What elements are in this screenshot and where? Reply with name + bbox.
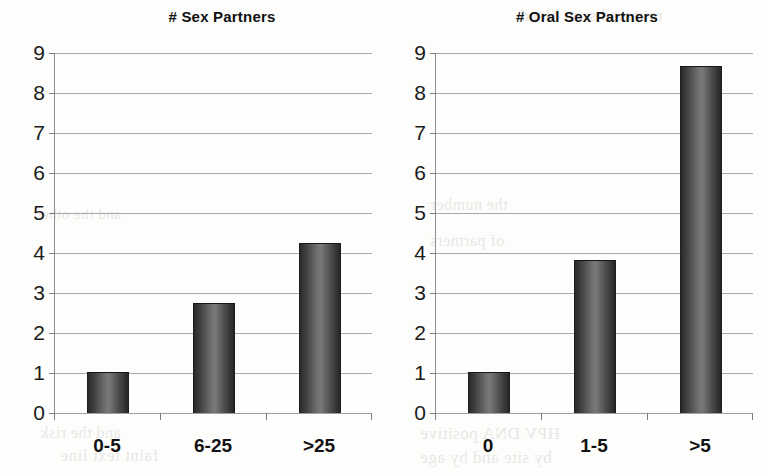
chart-title: # Oral Sex Partners <box>383 8 767 25</box>
bar <box>468 372 510 413</box>
y-gridline <box>54 213 372 214</box>
y-axis-label: 7 <box>414 121 426 145</box>
x-axis-label: 0-5 <box>93 435 120 457</box>
y-gridline <box>54 413 372 414</box>
y-axis-tick <box>49 333 55 334</box>
y-gridline <box>54 93 372 94</box>
y-axis-label: 1 <box>414 361 426 385</box>
y-axis-line <box>435 53 436 413</box>
x-axis-tick <box>160 413 161 420</box>
y-axis-label: 3 <box>414 281 426 305</box>
y-axis-tick <box>430 53 436 54</box>
y-axis-label: 7 <box>33 121 45 145</box>
chart-sex-partners: # Sex Partners 01234567890-56-25>25 <box>0 0 384 476</box>
y-axis-tick <box>49 93 55 94</box>
y-axis-tick <box>430 133 436 134</box>
y-axis-label: 4 <box>33 241 45 265</box>
y-axis-tick <box>430 333 436 334</box>
y-axis-label: 0 <box>33 401 45 425</box>
y-gridline <box>435 413 753 414</box>
y-axis-tick <box>49 133 55 134</box>
y-axis-tick <box>49 373 55 374</box>
y-gridline <box>54 133 372 134</box>
y-axis-tick <box>49 53 55 54</box>
figure-sheet: # Sex Partners 01234567890-56-25>25 # Or… <box>0 0 767 476</box>
y-axis-label: 1 <box>33 361 45 385</box>
y-axis-tick <box>49 293 55 294</box>
y-axis-label: 0 <box>414 401 426 425</box>
y-axis-label: 8 <box>33 81 45 105</box>
x-axis-tick <box>541 413 542 420</box>
x-axis-tick <box>266 413 267 420</box>
y-axis-label: 4 <box>414 241 426 265</box>
x-axis-label: >5 <box>689 435 711 457</box>
bar <box>574 260 616 413</box>
y-axis-label: 2 <box>33 321 45 345</box>
plot-area: 012345678901-5>5 <box>435 53 753 413</box>
y-axis-label: 8 <box>414 81 426 105</box>
chart-title: # Sex Partners <box>0 8 414 25</box>
x-axis-tick <box>752 413 753 420</box>
y-axis-tick <box>430 373 436 374</box>
y-axis-label: 5 <box>414 201 426 225</box>
x-axis-tick <box>435 413 436 420</box>
y-axis-tick <box>49 253 55 254</box>
plot-area: 01234567890-56-25>25 <box>54 53 372 413</box>
bar <box>680 66 722 413</box>
y-axis-tick <box>430 253 436 254</box>
bar <box>87 372 129 413</box>
bar <box>299 243 341 413</box>
y-axis-tick <box>49 173 55 174</box>
y-axis-tick <box>430 213 436 214</box>
chart-oral-sex-partners: # Oral Sex Partners 012345678901-5>5 <box>383 0 767 476</box>
y-axis-label: 3 <box>33 281 45 305</box>
y-gridline <box>54 173 372 174</box>
x-axis-label: 0 <box>483 435 494 457</box>
x-axis-tick <box>371 413 372 420</box>
y-axis-label: 6 <box>33 161 45 185</box>
x-axis-label: 6-25 <box>194 435 232 457</box>
y-axis-label: 9 <box>33 41 45 65</box>
bar <box>193 303 235 413</box>
x-axis-label: >25 <box>303 435 335 457</box>
y-axis-line <box>54 53 55 413</box>
y-axis-label: 5 <box>33 201 45 225</box>
x-axis-tick <box>54 413 55 420</box>
y-gridline <box>435 53 753 54</box>
y-axis-label: 9 <box>414 41 426 65</box>
y-axis-tick <box>430 293 436 294</box>
y-axis-label: 6 <box>414 161 426 185</box>
x-axis-tick <box>647 413 648 420</box>
y-axis-tick <box>430 173 436 174</box>
y-axis-label: 2 <box>414 321 426 345</box>
y-gridline <box>54 53 372 54</box>
x-axis-label: 1-5 <box>580 435 607 457</box>
y-axis-tick <box>49 213 55 214</box>
y-axis-tick <box>430 93 436 94</box>
